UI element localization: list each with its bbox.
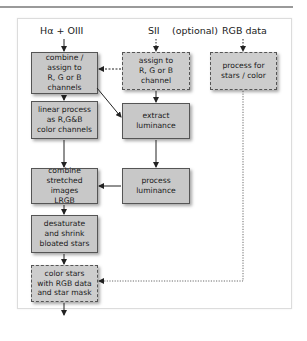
label-optional: (optional) — [172, 25, 218, 37]
box-text: desaturate — [40, 219, 90, 229]
box-assign-sii: assign to R, G or B channel — [122, 52, 190, 90]
box-text: assign to — [34, 63, 95, 73]
top-rule — [0, 6, 293, 8]
box-combine-assign: combine / assign to R, G or B channels — [31, 52, 98, 94]
box-text: color channels — [37, 125, 92, 135]
label-rgb-data: RGB data — [222, 25, 267, 37]
box-text: with RGB data — [37, 279, 91, 289]
box-text: and shrink — [40, 229, 90, 239]
box-process-stars: process for stars / color — [210, 52, 277, 90]
box-process-luminance: process luminance — [122, 168, 190, 204]
box-text: luminance — [136, 121, 176, 131]
box-text: R, G or B channels — [34, 73, 95, 93]
box-color-stars: color stars with RGB data and star mask — [31, 265, 98, 302]
box-text: assign to — [125, 56, 187, 66]
box-desaturate: desaturate and shrink bloated stars — [31, 215, 98, 253]
box-text: as R,G&B — [37, 115, 92, 125]
box-text: stretched images — [34, 176, 95, 196]
label-sii: SII — [148, 25, 160, 37]
box-linear-process: linear process as R,G&B color channels — [31, 101, 98, 139]
box-text: extract — [136, 111, 176, 121]
box-text: bloated stars — [40, 239, 90, 249]
box-text: R, G or B channel — [125, 66, 187, 86]
box-text: luminance — [136, 186, 176, 196]
box-text: and star mask — [37, 288, 91, 298]
box-text: LRGB — [34, 196, 95, 206]
box-text: linear process — [37, 105, 92, 115]
box-extract-luminance: extract luminance — [122, 103, 190, 139]
box-text: stars / color — [221, 71, 266, 81]
box-combine-lrgb: combine stretched images LRGB — [31, 168, 98, 204]
box-text: combine / — [34, 53, 95, 63]
box-text: combine — [34, 166, 95, 176]
box-text: color stars — [37, 269, 91, 279]
box-text: process for — [221, 61, 266, 71]
label-ha-oiii: Hα + OIII — [40, 25, 83, 37]
box-text: process — [136, 176, 176, 186]
